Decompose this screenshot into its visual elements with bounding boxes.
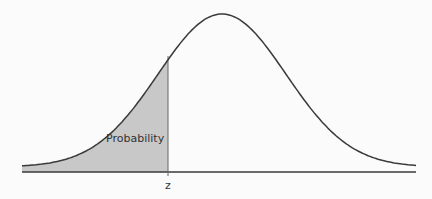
z-label: z — [165, 179, 171, 192]
shaded-probability-region — [22, 60, 168, 172]
bell-curve — [22, 14, 416, 166]
normal-curve-diagram — [0, 0, 432, 199]
probability-label: Probability — [106, 132, 164, 145]
